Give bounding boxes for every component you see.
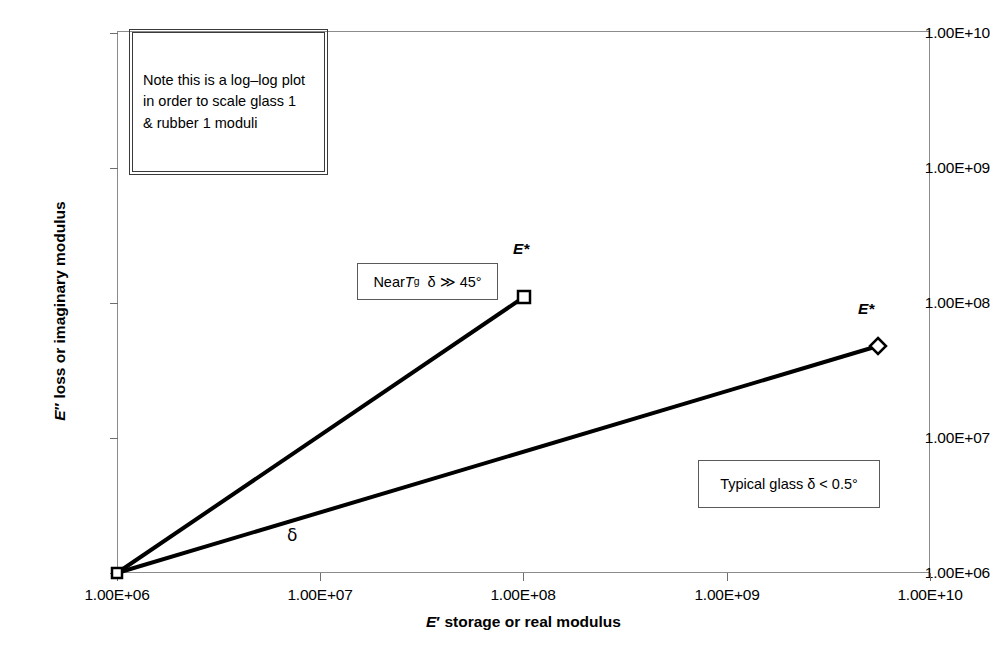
endpoint-label-estar-typical-glass: E* (858, 300, 874, 318)
x-tick-label: 1.00E+07 (260, 586, 380, 604)
y-axis-text: loss or imaginary modulus (51, 201, 68, 403)
x-tick-label: 1.00E+06 (57, 586, 177, 604)
note-line-2: in order to scale glass 1 (143, 91, 305, 112)
y-axis-symbol: E (51, 410, 68, 420)
y-tick-mark (110, 303, 118, 304)
chart-canvas: 1.00E+10 1.00E+09 1.00E+08 1.00E+07 1.00… (0, 0, 990, 654)
y-tick-label: 1.00E+07 (886, 429, 990, 447)
x-tick-label: 1.00E+10 (870, 586, 990, 604)
x-axis-title: E′ storage or real modulus (117, 613, 930, 631)
note-line-1: Note this is a log–log plot (143, 70, 305, 91)
note-annotation-text: Note this is a log–log plot in order to … (143, 70, 305, 133)
endpoint-label-estar-near-tg: E* (513, 240, 529, 258)
y-tick-mark (110, 168, 118, 169)
delta-angle-symbol: δ (287, 525, 297, 545)
y-tick-label: 1.00E+06 (886, 564, 990, 582)
x-axis-symbol: E (426, 613, 436, 630)
typical-glass-annotation-box: Typical glass δ < 0.5° (698, 460, 880, 508)
y-tick-label: 1.00E+10 (886, 24, 990, 42)
y-axis-prime: ″ (51, 403, 68, 410)
x-tick-mark (523, 573, 524, 581)
near-tg-symbol: T (405, 274, 414, 290)
x-tick-label: 1.00E+08 (463, 586, 583, 604)
x-tick-mark (117, 573, 118, 581)
near-tg-suffix: δ ≫ 45° (428, 274, 482, 290)
note-annotation-box: Note this is a log–log plot in order to … (132, 32, 325, 172)
x-tick-mark (727, 573, 728, 581)
x-tick-mark (320, 573, 321, 581)
x-axis-text: storage or real modulus (440, 613, 621, 630)
y-tick-mark (110, 438, 118, 439)
typical-glass-text: Typical glass δ < 0.5° (720, 476, 858, 492)
note-line-3: & rubber 1 moduli (143, 113, 305, 134)
x-tick-mark (930, 573, 931, 581)
y-tick-mark (110, 33, 118, 34)
y-tick-label: 1.00E+08 (886, 294, 990, 312)
near-tg-prefix: Near (373, 274, 404, 290)
y-axis-title: E″ loss or imaginary modulus (51, 101, 69, 521)
y-tick-label: 1.00E+09 (886, 159, 990, 177)
x-tick-label: 1.00E+09 (667, 586, 787, 604)
near-tg-annotation-box: Near Tg δ ≫ 45° (357, 263, 498, 300)
